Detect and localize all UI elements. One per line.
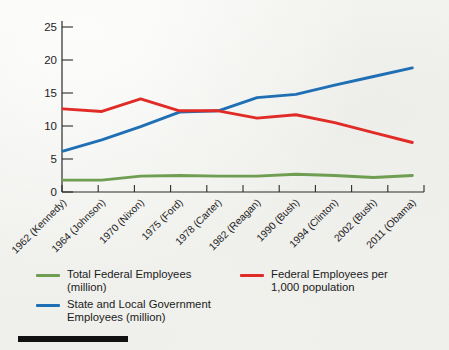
y-tick-label: 5 — [51, 153, 57, 165]
y-tick-label: 10 — [44, 120, 57, 132]
legend-swatch-red — [240, 274, 264, 277]
x-axis-tick-labels: 1962 (Kennedy)1964 (Johnson)1970 (Nixon)… — [9, 197, 417, 256]
x-axis — [62, 185, 424, 192]
y-tick-label: 0 — [51, 186, 57, 198]
y-tick-label: 25 — [44, 21, 57, 33]
legend-label-state-local-employees: State and Local Government Employees (mi… — [67, 298, 211, 325]
data-series-group — [63, 68, 412, 180]
legend-item-total-federal-employees[interactable]: Total Federal Employees (million) — [36, 268, 236, 295]
legend-label-total-federal-employees: Total Federal Employees (million) — [67, 268, 191, 295]
legend-swatch-blue — [36, 304, 60, 307]
series-line-0 — [63, 174, 412, 180]
legend-item-state-local-employees[interactable]: State and Local Government Employees (mi… — [36, 298, 256, 325]
bottom-black-rule — [18, 336, 128, 342]
legend-label-federal-employees-per-1000: Federal Employees per 1,000 population — [271, 268, 388, 295]
y-tick-label: 20 — [44, 54, 57, 66]
legend-swatch-green — [36, 274, 60, 277]
chart-page: 0510152025 1962 (Kennedy)1964 (Johnson)1… — [0, 0, 449, 350]
chart-legend: Total Federal Employees (million) State … — [36, 268, 436, 326]
legend-item-federal-employees-per-1000[interactable]: Federal Employees per 1,000 population — [240, 268, 435, 295]
series-line-1 — [63, 68, 412, 151]
y-tick-label: 15 — [44, 87, 57, 99]
